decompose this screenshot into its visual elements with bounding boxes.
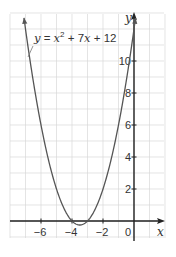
x-tick-label: −6 <box>34 226 47 238</box>
y-tick-label: 8 <box>125 87 131 99</box>
tick-labels: −6−4−20246810 <box>34 55 137 238</box>
parabola-graph: −6−4−20246810 y = x2 + 7x + 12 x y <box>0 0 176 257</box>
x-axis-label: x <box>157 225 164 239</box>
grid-lines <box>10 13 165 238</box>
curve-arrow-icon <box>22 18 27 24</box>
y-tick-label: 4 <box>125 151 131 163</box>
curve-arrowheads <box>22 18 137 24</box>
y-tick-label: 6 <box>125 119 131 131</box>
equation-label: y = x2 + 7x + 12 <box>33 30 116 45</box>
y-axis-label: y <box>124 11 132 25</box>
y-tick-label: 2 <box>125 183 131 195</box>
x-tick-label: −2 <box>96 226 109 238</box>
x-tick-label: 0 <box>125 226 131 238</box>
x-tick-label: −4 <box>65 226 78 238</box>
